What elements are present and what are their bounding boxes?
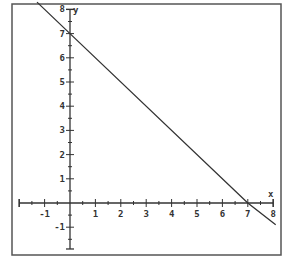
y-tick-label: 8 bbox=[60, 4, 65, 14]
x-tick-label: 8 bbox=[270, 209, 275, 219]
y-tick-label: 6 bbox=[60, 53, 65, 63]
x-tick-label: 6 bbox=[220, 209, 225, 219]
axis-ticks bbox=[19, 9, 273, 239]
x-tick-label: 4 bbox=[169, 209, 175, 219]
y-tick-label: 5 bbox=[60, 77, 65, 87]
x-tick-label: 2 bbox=[118, 209, 123, 219]
x-tick-label: 1 bbox=[93, 209, 98, 219]
y-tick-label: 3 bbox=[60, 125, 65, 135]
x-tick-label: 5 bbox=[194, 209, 199, 219]
y-tick-label: 1 bbox=[60, 174, 65, 184]
x-axis-label: x bbox=[268, 189, 274, 199]
x-tick-label: 3 bbox=[143, 209, 148, 219]
line-graph: -112345678-112345678 x y bbox=[0, 0, 286, 261]
x-tick-label: 7 bbox=[245, 209, 250, 219]
x-tick-label: -1 bbox=[39, 209, 50, 219]
data-line bbox=[37, 2, 276, 225]
y-tick-label: 2 bbox=[60, 150, 65, 160]
y-tick-label: -1 bbox=[54, 222, 65, 232]
y-axis-label: y bbox=[73, 5, 79, 15]
y-tick-label: 4 bbox=[60, 101, 66, 111]
y-tick-label: 7 bbox=[60, 29, 65, 39]
